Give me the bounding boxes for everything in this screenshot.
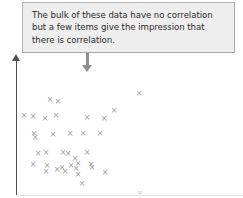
scatter-point — [84, 114, 91, 121]
scatter-point — [101, 115, 108, 122]
figure-canvas: The bulk of these data have no correlati… — [0, 0, 243, 198]
annotation-callout-text: The bulk of these data have no correlati… — [32, 9, 228, 46]
scatter-point — [53, 112, 60, 119]
scatter-point — [97, 130, 104, 137]
scatter-point — [30, 113, 37, 120]
scatter-point — [50, 131, 57, 138]
scatter-point — [102, 169, 109, 176]
scatter-point — [47, 96, 54, 103]
scatter-point — [89, 164, 96, 171]
scatter-point — [42, 115, 49, 122]
scatter-point — [35, 150, 42, 157]
scatter-point — [111, 107, 118, 114]
scatter-point — [80, 130, 87, 137]
scatter-point — [43, 149, 50, 156]
x-axis-line — [16, 195, 243, 196]
scatter-point — [32, 134, 39, 141]
scatter-point — [43, 168, 50, 175]
arrow-up-icon — [12, 54, 20, 61]
annotation-callout: The bulk of these data have no correlati… — [22, 2, 235, 53]
scatter-point — [75, 160, 82, 167]
y-axis-line — [16, 60, 17, 196]
arrow-down-icon — [82, 65, 92, 72]
scatter-point — [79, 180, 86, 187]
scatter-point — [67, 130, 74, 137]
scatter-point — [75, 171, 82, 178]
scatter-point — [55, 98, 62, 105]
scatter-point — [30, 161, 37, 168]
scatter-point — [21, 112, 28, 119]
scatter-point — [65, 150, 72, 157]
scatter-point — [84, 149, 91, 156]
scatter-point — [136, 90, 143, 97]
